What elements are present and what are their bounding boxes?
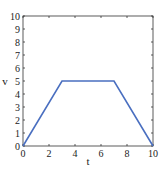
series-line (23, 81, 153, 146)
x-tick-label: 0 (21, 148, 26, 159)
y-tick-label: 1 (15, 128, 20, 139)
x-tick-label: 6 (99, 148, 104, 159)
x-tick-label: 8 (125, 148, 130, 159)
y-tick-label: 8 (15, 37, 20, 48)
y-tick-labels: 012345678910 (10, 11, 20, 152)
y-tick-label: 5 (15, 76, 20, 87)
y-tick-label: 0 (15, 141, 20, 152)
y-tick-label: 6 (15, 63, 20, 74)
data-series (23, 81, 153, 146)
y-tick-label: 7 (15, 50, 20, 61)
y-tick-label: 4 (15, 89, 20, 100)
y-tick-label: 9 (15, 24, 20, 35)
x-axis-label: t (86, 155, 89, 167)
y-tick-label: 10 (10, 11, 20, 22)
y-tick-label: 3 (15, 102, 20, 113)
x-tick-label: 10 (148, 148, 158, 159)
x-tick-label: 2 (47, 148, 52, 159)
y-axis-label: v (2, 75, 8, 87)
x-tick-label: 4 (73, 148, 78, 159)
y-tick-label: 2 (15, 115, 20, 126)
velocity-time-chart: 0246810 012345678910 t v (0, 0, 162, 171)
